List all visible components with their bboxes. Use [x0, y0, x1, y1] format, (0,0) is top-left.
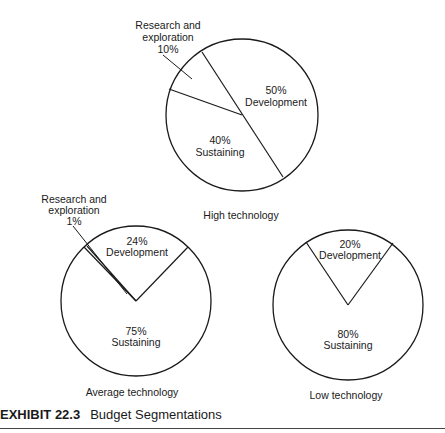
pie-average-technology: Research and exploration 1% 24% Developm… [41, 193, 211, 398]
development-label: Development [245, 96, 307, 108]
development-label: Development [319, 249, 381, 261]
development-pct: 50% [265, 84, 286, 96]
slice-divider [169, 89, 242, 115]
research-label-line2: exploration [142, 31, 194, 43]
research-label-line1: Research and [135, 19, 201, 31]
exhibit-title: Budget Segmentations [90, 407, 222, 422]
development-label: Development [106, 246, 168, 258]
chart-title: Low technology [310, 389, 384, 401]
pie-high-technology: Research and exploration 10% 50% Develop… [135, 19, 318, 221]
sustaining-label: Sustaining [195, 146, 244, 158]
research-pct: 1% [66, 215, 81, 227]
pie-low-technology: 20% Development 80% Sustaining Low techn… [273, 230, 423, 401]
figure-caption: EXHIBIT 22.3Budget Segmentations [0, 407, 222, 422]
slice-divider [202, 52, 283, 177]
sustaining-pct: 40% [209, 134, 230, 146]
label-pointer [73, 226, 127, 294]
exhibit-number: EXHIBIT 22.3 [0, 407, 80, 422]
sustaining-label: Sustaining [323, 339, 372, 351]
research-pct: 10% [157, 43, 178, 55]
caption-divider [0, 428, 445, 429]
budget-segmentation-figure: Research and exploration 10% 50% Develop… [0, 0, 445, 433]
chart-title: High technology [203, 209, 279, 221]
chart-title: Average technology [86, 386, 179, 398]
sustaining-label: Sustaining [111, 336, 160, 348]
